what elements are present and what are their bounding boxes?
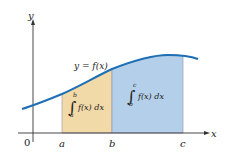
curve-label: y = f(x) <box>73 61 108 71</box>
origin-label: 0 <box>24 137 30 148</box>
x-axis-label: x <box>211 128 217 139</box>
upper-limit: b <box>73 91 77 98</box>
tick-label-a: a <box>59 138 65 149</box>
lower-limit: a <box>70 111 74 118</box>
y-axis-label: y <box>27 10 34 21</box>
integrand: f(x) dx <box>137 92 164 101</box>
integrand: f(x) dx <box>77 103 104 112</box>
tick-label-b: b <box>109 138 115 149</box>
tick-label-c: c <box>180 138 186 149</box>
integral-diagram: y x 0 y = f(x) a b c ∫ b a f(x) dx ∫ c b… <box>0 0 230 154</box>
x-axis-arrow <box>204 131 210 135</box>
lower-limit: b <box>129 100 133 107</box>
